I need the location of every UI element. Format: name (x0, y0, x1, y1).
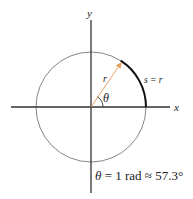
angle-label: θ (103, 91, 109, 105)
arc-label: s = r (144, 75, 163, 85)
arc-s (121, 61, 146, 107)
x-axis-label: x (173, 101, 179, 113)
caption-equation: = 1 rad ≈ 57.3° (101, 168, 183, 183)
caption: θ = 1 rad ≈ 57.3° (95, 168, 183, 183)
y-axis-label: y (86, 7, 92, 19)
radian-diagram: y x r θ s = r θ = 1 rad ≈ 57.3° (0, 0, 193, 199)
radius-label: r (103, 73, 107, 84)
